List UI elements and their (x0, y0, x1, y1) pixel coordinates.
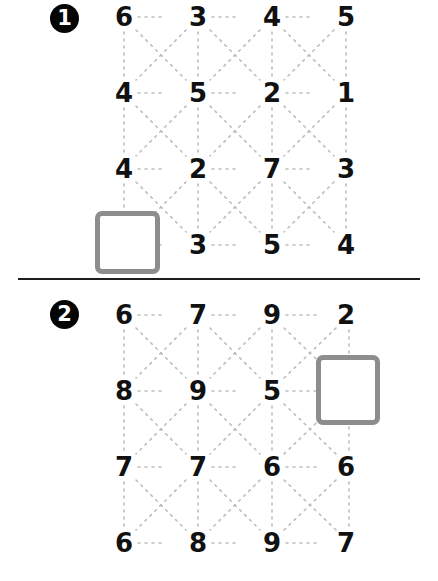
grid-cell: 7 (178, 298, 218, 332)
puzzle-page: 1 (0, 0, 438, 581)
grid-cell: 4 (104, 76, 144, 110)
grid-cell: 2 (178, 152, 218, 186)
grid-cell: 6 (104, 526, 144, 560)
grid-cell: 8 (104, 374, 144, 408)
panel-number-badge-2: 2 (50, 300, 79, 329)
grid-cell: 5 (252, 228, 292, 262)
grid-cell: 7 (178, 450, 218, 484)
grid-cell: 6 (104, 0, 144, 34)
answer-box-2[interactable] (316, 355, 380, 425)
grid-cell: 6 (326, 450, 366, 484)
grid-cell: 6 (252, 450, 292, 484)
grid-cell: 1 (326, 76, 366, 110)
grid-cell: 5 (326, 0, 366, 34)
grid-cell: 7 (252, 152, 292, 186)
puzzle-panel-1: 1 (0, 0, 438, 279)
grid-cell: 4 (326, 228, 366, 262)
grid-cell: 2 (252, 76, 292, 110)
grid-cell: 9 (252, 298, 292, 332)
grid-cell: 3 (178, 0, 218, 34)
grid-cell: 7 (326, 526, 366, 560)
grid-cell: 4 (104, 152, 144, 186)
grid-cell: 2 (326, 298, 366, 332)
grid-cell: 4 (252, 0, 292, 34)
grid-cell: 3 (178, 228, 218, 262)
grid-cell: 5 (178, 76, 218, 110)
grid-cell: 3 (326, 152, 366, 186)
panel-divider (18, 278, 420, 280)
grid-cell: 6 (104, 298, 144, 332)
number-grid-2: 6 7 9 2 8 9 5 7 7 6 6 6 8 9 7 (104, 298, 382, 563)
grid-cell: 5 (252, 374, 292, 408)
grid-cell: 7 (104, 450, 144, 484)
grid-cell: 9 (252, 526, 292, 560)
grid-connector-lines-2 (104, 298, 382, 563)
panel-number-badge-1: 1 (50, 4, 79, 33)
answer-box-1[interactable] (95, 211, 160, 274)
grid-cell: 9 (178, 374, 218, 408)
grid-cell: 8 (178, 526, 218, 560)
